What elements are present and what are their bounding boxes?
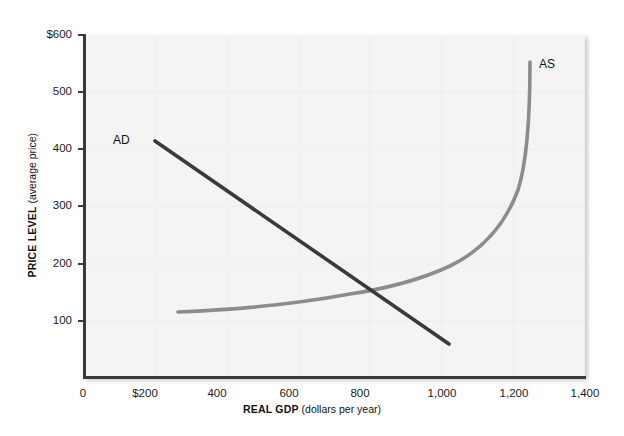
ad-curve-label: AD: [113, 134, 130, 146]
x-axis-title: REAL GDP (dollars per year): [0, 404, 624, 415]
x-tick-label-1000: 1,000: [412, 388, 472, 400]
x-tick-label-1200: 1,200: [484, 388, 544, 400]
x-tick-label-400: 400: [187, 388, 247, 400]
x-tick-label-0: 0: [53, 388, 113, 400]
x-axis-title-sub: (dollars per year): [299, 403, 381, 415]
x-tick-label-200: $200: [115, 388, 175, 400]
x-tick-label-1400: 1,400: [555, 388, 615, 400]
x-axis-title-main: REAL GDP: [243, 403, 299, 415]
x-tick-label-600: 600: [259, 388, 319, 400]
y-axis-title: PRICE LEVEL (average price): [27, 55, 38, 355]
y-axis-title-sub: (average price): [26, 133, 38, 207]
as-curve-label: AS: [539, 58, 555, 70]
figure-container: $600 500 400 300 200 100 0 $200 400 600 …: [0, 0, 624, 436]
y-axis-title-main: PRICE LEVEL: [26, 207, 38, 278]
y-tick-label-600: $600: [18, 29, 72, 41]
chart-canvas: [0, 0, 624, 436]
x-tick-label-800: 800: [330, 388, 390, 400]
